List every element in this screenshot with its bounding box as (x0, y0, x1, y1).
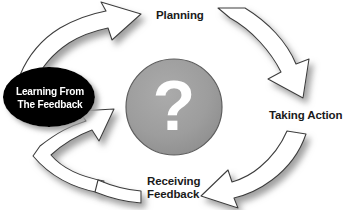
learning-node-line1: Learning From (16, 85, 84, 97)
learning-node-label: Learning FromThe Feedback (10, 85, 91, 110)
stage-label-receiving-feedback: ReceivingFeedback (147, 175, 200, 201)
learning-node-line2: The Feedback (18, 98, 83, 110)
receiving-feedback-line2: Feedback (147, 188, 199, 200)
arrow-to-receiving-feedback (201, 131, 306, 208)
stage-label-planning: Planning (156, 9, 204, 22)
question-mark-icon: ? (138, 58, 210, 154)
arrow-to-learning-tail (95, 180, 141, 203)
cycle-diagram: ? Learning FromThe Feedback Planning Tak… (0, 0, 348, 210)
stage-label-taking-action: Taking Action (269, 109, 342, 122)
receiving-feedback-line1: Receiving (147, 175, 200, 187)
arrow-to-taking-action (218, 8, 309, 98)
